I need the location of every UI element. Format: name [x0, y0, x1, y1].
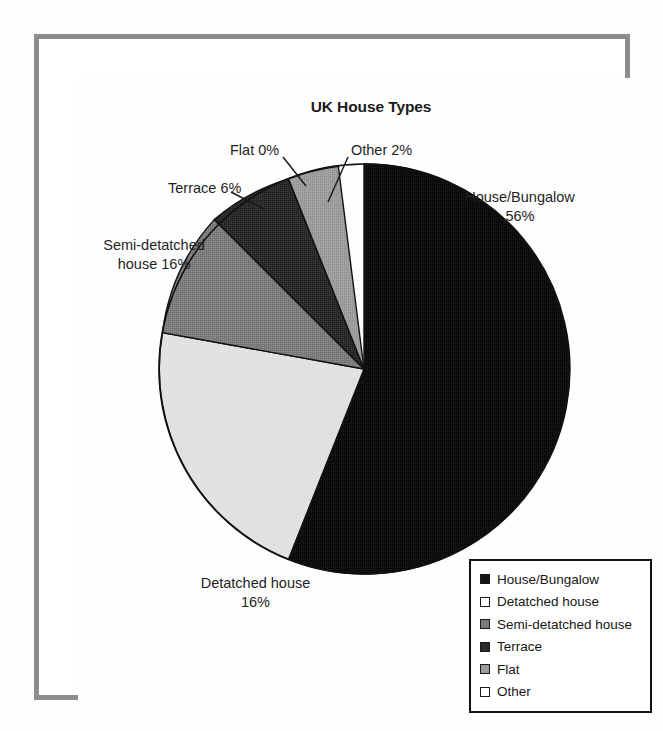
plot-area: UK House Types [78, 78, 663, 731]
slice-label-semi-detatched: Semi-detatched house 16% [84, 236, 224, 273]
slice-label-detatched-house-line1: Detatched house [153, 574, 358, 593]
slice-label-house-bungalow-line1: House/Bungalow [435, 188, 605, 207]
legend-label-house-bungalow: House/Bungalow [497, 572, 599, 587]
slice-label-house-bungalow-line2: 56% [435, 207, 605, 226]
slice-label-semi-detatched-line1: Semi-detatched [84, 236, 224, 255]
legend-label-other: Other [497, 684, 531, 699]
legend-item-house-bungalow[interactable]: House/Bungalow [480, 568, 650, 591]
legend-label-flat: Flat [497, 662, 520, 677]
slice-label-house-bungalow: House/Bungalow 56% [435, 188, 605, 225]
legend-swatch-flat [480, 664, 490, 674]
legend-swatch-house-bungalow [480, 574, 490, 584]
legend-label-detatched-house: Detatched house [497, 594, 599, 609]
chart-legend: House/Bungalow Detatched house Semi-deta… [469, 559, 652, 713]
legend-swatch-other [480, 687, 490, 697]
legend-label-terrace: Terrace [497, 639, 542, 654]
legend-item-flat[interactable]: Flat [480, 658, 650, 681]
legend-swatch-semi-detatched-house [480, 619, 490, 629]
slice-label-detatched-house-line2: 16% [153, 593, 358, 612]
legend-label-semi-detatched-house: Semi-detatched house [497, 617, 632, 632]
page-frame: UK House Types [34, 34, 630, 700]
slice-label-terrace: Terrace 6% [168, 179, 241, 198]
legend-item-terrace[interactable]: Terrace [480, 636, 650, 659]
legend-swatch-detatched-house [480, 597, 490, 607]
legend-item-detatched-house[interactable]: Detatched house [480, 591, 650, 614]
slice-label-other: Other 2% [351, 141, 412, 160]
slice-label-semi-detatched-line2: house 16% [84, 255, 224, 274]
chart-page: UK House Types [0, 0, 663, 731]
legend-swatch-terrace [480, 642, 490, 652]
slice-label-flat: Flat 0% [230, 141, 279, 160]
legend-item-other[interactable]: Other [480, 681, 650, 704]
slice-label-detatched-house: Detatched house 16% [153, 574, 358, 611]
legend-item-semi-detatched-house[interactable]: Semi-detatched house [480, 613, 650, 636]
